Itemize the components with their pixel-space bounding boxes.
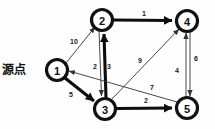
- edge-2-to-4: [113, 20, 172, 21]
- edge-weight-4-5: 6: [194, 55, 198, 62]
- edge-weight-3-2: 3: [107, 63, 111, 70]
- edge-weight-3-5: 2: [144, 97, 148, 104]
- edge-weight-3-4: 9: [138, 57, 142, 64]
- graph-canvas: 10 5 1 2 3 9 2 7 6 4 1 2 3 4 5: [0, 0, 215, 129]
- graph-node-4[interactable]: 4: [177, 11, 198, 32]
- node-2-label: 2: [99, 15, 105, 27]
- node-3-label: 3: [102, 104, 108, 116]
- graph-diagram: 源点 10 5: [0, 0, 215, 129]
- edge-2-to-3: [99, 31, 102, 96]
- edge-1-to-2: [66, 27, 95, 63]
- node-4-label: 4: [184, 16, 191, 28]
- graph-node-3[interactable]: 3: [95, 99, 116, 120]
- graph-node-5[interactable]: 5: [177, 98, 198, 119]
- graph-node-1[interactable]: 1: [47, 60, 68, 81]
- edge-3-to-2: [104, 34, 106, 98]
- edge-weight-5-1: 7: [150, 84, 154, 91]
- edge-weight-5-4: 4: [175, 67, 179, 74]
- node-1-label: 1: [54, 65, 60, 77]
- node-5-label: 5: [184, 103, 190, 115]
- graph-node-2[interactable]: 2: [92, 10, 113, 31]
- edge-weight-2-4: 1: [142, 10, 146, 17]
- edge-3-to-5: [116, 108, 172, 109]
- edge-weight-1-3: 5: [69, 91, 73, 98]
- edge-1-to-3: [65, 78, 94, 101]
- edge-5-to-1: [69, 71, 177, 102]
- edge-weight-1-2: 10: [70, 38, 78, 45]
- edge-3-to-4: [112, 29, 179, 99]
- edge-weight-2-3: 2: [93, 63, 97, 70]
